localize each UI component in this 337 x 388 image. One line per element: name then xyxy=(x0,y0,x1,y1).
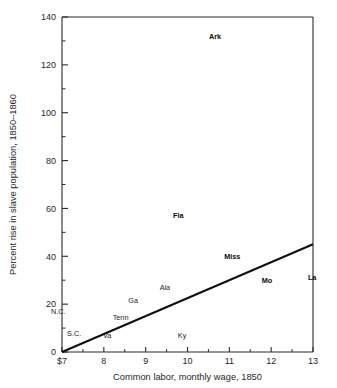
x-tick-label: 8 xyxy=(101,356,106,366)
data-point-ky: Ky xyxy=(178,331,187,340)
data-point-labels: ArkFlaMissLaMoAlaGaN.C.TennS.C.VaKy xyxy=(51,32,317,340)
y-tick-label: 0 xyxy=(51,347,56,357)
y-tick-label: 120 xyxy=(41,60,56,70)
x-tick-label: 10 xyxy=(182,356,192,366)
chart-tick-labels: 020406080100120140$78910111213 xyxy=(41,12,318,366)
x-tick-label: $7 xyxy=(57,356,67,366)
data-point-la: La xyxy=(308,273,317,282)
x-tick-label: 12 xyxy=(266,356,276,366)
data-point-ga: Ga xyxy=(128,296,139,305)
data-point-ark: Ark xyxy=(209,32,222,41)
data-point-nc: N.C. xyxy=(51,307,66,316)
regression-line xyxy=(62,244,313,352)
y-tick-label: 80 xyxy=(46,156,56,166)
x-tick-label: 11 xyxy=(225,356,234,366)
data-point-va: Va xyxy=(103,331,112,340)
chart-axes xyxy=(62,17,313,352)
y-tick-label: 100 xyxy=(41,108,56,118)
x-tick-label: 9 xyxy=(143,356,148,366)
y-tick-label: 60 xyxy=(46,204,56,214)
trend-line xyxy=(62,244,313,352)
y-tick-label: 40 xyxy=(46,252,56,262)
data-point-tenn: Tenn xyxy=(113,313,129,322)
chart-axis-titles: Common labor, monthly wage, 1850Percent … xyxy=(8,94,262,382)
y-tick-label: 140 xyxy=(41,12,56,22)
scatter-chart: 020406080100120140$78910111213 ArkFlaMis… xyxy=(0,0,337,388)
y-axis-title: Percent rise in slave population, 1850–1… xyxy=(8,94,18,275)
data-point-fla: Fla xyxy=(173,211,184,220)
x-axis-title: Common labor, monthly wage, 1850 xyxy=(113,372,262,382)
chart-figure: 020406080100120140$78910111213 ArkFlaMis… xyxy=(0,0,337,388)
x-tick-label: 13 xyxy=(308,356,318,366)
data-point-ala: Ala xyxy=(160,283,171,292)
data-point-sc: S.C. xyxy=(67,329,81,338)
data-point-mo: Mo xyxy=(262,276,273,285)
chart-ticks xyxy=(62,17,313,352)
data-point-miss: Miss xyxy=(224,252,240,261)
